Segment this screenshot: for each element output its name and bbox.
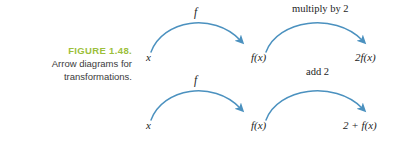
row2-start-label: x [146, 119, 151, 131]
arc-row2-f [151, 91, 240, 120]
row1-start-label: x [146, 51, 151, 63]
row1-arc2-label: multiply by 2 [292, 3, 349, 14]
arc-row2-add-2 [266, 91, 362, 120]
figure-caption: FIGURE 1.48. Arrow diagrams for transfor… [8, 44, 132, 83]
row2-arc1-label: f [194, 74, 197, 86]
figure-container: FIGURE 1.48. Arrow diagrams for transfor… [0, 0, 409, 144]
arc-row1-f [151, 23, 240, 52]
caption-line-1: Arrow diagrams for [52, 58, 132, 69]
figure-caption-text: Arrow diagrams for transformations. [8, 58, 132, 83]
caption-line-2: transformations. [64, 71, 132, 82]
arc-row1-multiply-by-2 [266, 23, 362, 52]
row1-middle-label: f(x) [251, 51, 266, 63]
figure-number-label: FIGURE 1.48. [8, 44, 132, 57]
row2-arc2-label: add 2 [306, 66, 329, 77]
row1-arc1-label: f [194, 6, 197, 18]
arrow-diagram-area: x f f(x) multiply by 2 2f(x) x f f(x) ad… [138, 0, 409, 144]
row2-middle-label: f(x) [251, 119, 266, 131]
row1-end-label: 2f(x) [355, 51, 376, 63]
row2-end-label: 2 + f(x) [343, 119, 377, 131]
